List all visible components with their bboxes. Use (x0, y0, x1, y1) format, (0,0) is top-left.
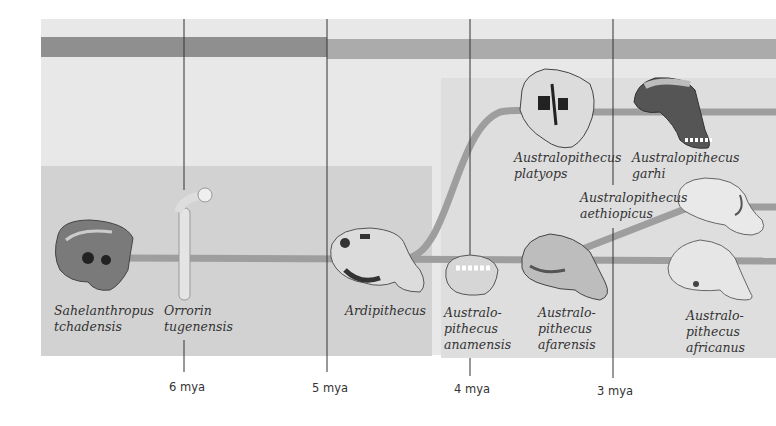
tick-label-3mya: 3 mya (597, 384, 633, 398)
label-sahelanthropus: Sahelanthropus tchadensis (54, 303, 154, 335)
label-ardipithecus: Ardipithecus (345, 303, 426, 319)
label-aethiopicus: Australopithecus aethiopicus (580, 190, 687, 222)
label-orrorin: Orrorin tugenensis (164, 303, 233, 335)
label-garhi: Australopithecus garhi (632, 150, 739, 182)
label-anamensis: Australo- pithecus anamensis (444, 305, 511, 353)
tick-label-4mya: 4 mya (454, 382, 490, 396)
anamensis-jaw-icon (446, 255, 498, 295)
tick-label-6mya: 6 mya (169, 380, 205, 394)
hominin-timeline-diagram: Sahelanthropus tchadensis Orrorin tugene… (0, 0, 776, 426)
tick-label-5mya: 5 mya (312, 381, 348, 395)
label-platyops: Australopithecus platyops (514, 150, 621, 182)
label-africanus: Australo- pithecus africanus (686, 308, 745, 356)
label-afarensis: Australo- pithecus afarensis (538, 305, 596, 353)
period-band-light (327, 39, 776, 59)
